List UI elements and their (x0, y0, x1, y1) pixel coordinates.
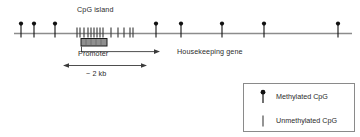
methylated-cpg-marker (336, 22, 340, 38)
scale-bar-2kb (63, 63, 147, 68)
unmethylated-cpg-markers (77, 28, 133, 38)
tick-line-icon (256, 113, 270, 129)
scale-bar-label: ~ 2 kb (86, 69, 106, 78)
legend-item-unmethylated: Unmethylated CpG (244, 109, 356, 133)
methylated-cpg-marker (32, 22, 36, 38)
promoter-box (81, 39, 107, 47)
legend-label-unmethylated: Unmethylated CpG (276, 116, 337, 125)
cpg-island-label: CpG island (77, 5, 114, 14)
legend: Methylated CpG Unmethylated CpG (243, 83, 355, 132)
methylated-cpg-marker (19, 22, 23, 38)
methylated-cpg-marker (53, 22, 57, 38)
housekeeping-gene-label: Housekeeping gene (177, 47, 243, 56)
legend-label-methylated: Methylated CpG (276, 92, 328, 101)
methylated-cpg-markers (19, 22, 340, 38)
lollipop-filled-icon (256, 89, 270, 105)
methylated-cpg-marker (220, 22, 224, 38)
promoter-label: Promoter (78, 49, 108, 58)
methylated-cpg-marker (179, 22, 183, 38)
methylated-cpg-marker (154, 22, 158, 38)
legend-item-methylated: Methylated CpG (244, 85, 356, 109)
methylated-cpg-marker (262, 22, 266, 38)
